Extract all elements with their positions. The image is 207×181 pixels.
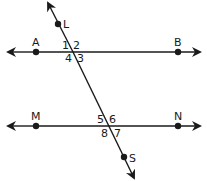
angle-4: 4 [65, 52, 72, 65]
label-n: N [174, 110, 182, 123]
angle-1: 1 [62, 39, 69, 52]
label-b: B [174, 36, 182, 49]
angle-5: 5 [97, 113, 104, 126]
point-n [175, 123, 181, 129]
label-l: L [63, 18, 70, 31]
angle-2: 2 [73, 39, 80, 52]
point-l [55, 21, 61, 27]
point-s [121, 154, 127, 160]
transversal-ls [48, 3, 134, 178]
label-s: S [129, 152, 136, 165]
angle-7: 7 [114, 127, 121, 140]
point-b [175, 49, 181, 55]
angle-8: 8 [101, 127, 108, 140]
label-a: A [32, 36, 40, 49]
point-m [33, 123, 39, 129]
angle-6: 6 [109, 113, 116, 126]
angle-3: 3 [77, 52, 84, 65]
label-m: M [31, 110, 41, 123]
point-a [33, 49, 39, 55]
geometry-diagram: A B M N L S 1 2 3 4 5 6 7 8 [0, 0, 207, 181]
